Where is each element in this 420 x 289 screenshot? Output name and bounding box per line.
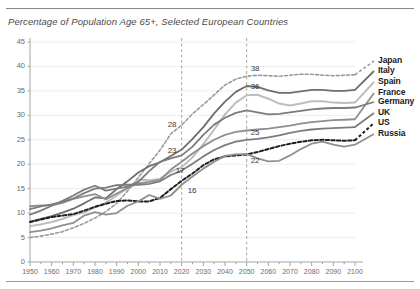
annotation-japan-2050: 38: [251, 64, 260, 73]
annotation-russia-2050: 22: [251, 156, 260, 165]
legend-leader-russia: [355, 134, 374, 145]
figure-container: Percentage of Population Age 65+, Select…: [0, 0, 420, 289]
legend-item-spain[interactable]: Spain: [378, 76, 401, 86]
annotation-italy-2050: 36: [251, 82, 260, 91]
legend-item-germany[interactable]: Germany: [378, 96, 414, 106]
series-line-us: [30, 140, 355, 222]
y-tick-label-0: 0: [9, 257, 25, 266]
y-tick-label-15: 15: [9, 184, 25, 193]
y-tick-label-35: 35: [9, 86, 25, 95]
y-tick-label-10: 10: [9, 208, 25, 217]
chart-svg: [0, 0, 420, 289]
x-tick-label-2100: 2100: [341, 268, 369, 275]
y-tick-label-30: 30: [9, 110, 25, 119]
legend-leader-spain: [355, 82, 374, 103]
plot-area: [0, 0, 420, 289]
annotation-japan-2020: 28: [168, 120, 177, 129]
legend-item-uk[interactable]: UK: [378, 107, 390, 117]
legend-item-italy[interactable]: Italy: [378, 65, 395, 75]
y-tick-label-40: 40: [9, 61, 25, 70]
legend-item-russia[interactable]: Russia: [378, 128, 405, 138]
annotation-uk-2050: 25: [251, 128, 260, 137]
legend-item-japan[interactable]: Japan: [378, 55, 402, 65]
annotation-russia-2020: 16: [188, 186, 197, 195]
y-tick-label-25: 25: [9, 135, 25, 144]
y-tick-label-20: 20: [9, 159, 25, 168]
annotation-us-2020: 17: [176, 166, 185, 175]
y-tick-label-45: 45: [9, 37, 25, 46]
legend-leader-italy: [355, 71, 374, 90]
y-tick-label-5: 5: [9, 233, 25, 242]
legend-item-us[interactable]: US: [378, 117, 390, 127]
annotation-italy-2020: 23: [168, 146, 177, 155]
